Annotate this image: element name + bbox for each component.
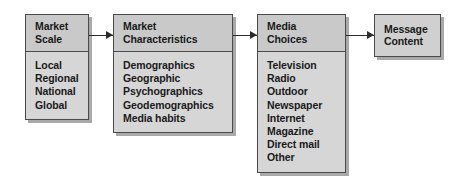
list-item: National [35, 85, 81, 98]
node-market-scale-header: Market Scale [26, 15, 88, 52]
arrow-head [106, 31, 113, 39]
node-media-choices[interactable]: Media Choices Television Radio Outdoor N… [257, 14, 346, 173]
node-media-choices-header-line-2: Choices [267, 33, 338, 46]
list-item: Internet [267, 112, 338, 125]
list-item: Other [267, 151, 338, 164]
node-message-content[interactable]: Message Content [374, 14, 441, 57]
flow-diagram: Market Scale Local Regional National Glo… [0, 0, 452, 191]
node-message-content-header: Message Content [375, 15, 440, 56]
arrow-head [367, 31, 374, 39]
list-item: Geodemographics [123, 99, 225, 112]
list-item: Direct mail [267, 138, 338, 151]
list-item: Magazine [267, 125, 338, 138]
arrow-right-icon-market-scale-to-market-characteristics [89, 31, 113, 40]
list-item: Demographics [123, 59, 225, 72]
node-message-content-header-line-2: Content [384, 35, 433, 48]
node-media-choices-header: Media Choices [258, 15, 345, 52]
list-item: Outdoor [267, 85, 338, 98]
list-item: Television [267, 59, 338, 72]
node-market-characteristics-header-line-1: Market [123, 20, 225, 33]
list-item: Global [35, 99, 81, 112]
node-market-characteristics-header-line-2: Characteristics [123, 33, 225, 46]
list-item: Geographic [123, 72, 225, 85]
arrow-right-icon-media-choices-to-message-content [346, 31, 374, 40]
node-market-scale-body: Local Regional National Global [26, 52, 88, 119]
node-media-choices-body: Television Radio Outdoor Newspaper Inter… [258, 52, 345, 172]
node-market-characteristics-body: Demographics Geographic Psychographics G… [114, 52, 232, 132]
list-item: Regional [35, 72, 81, 85]
node-market-characteristics[interactable]: Market Characteristics Demographics Geog… [113, 14, 233, 133]
list-item: Radio [267, 72, 338, 85]
node-market-scale-header-line-1: Market [35, 20, 81, 33]
node-message-content-header-line-1: Message [384, 23, 433, 36]
arrow-right-icon-market-characteristics-to-media-choices [233, 31, 257, 40]
list-item: Newspaper [267, 99, 338, 112]
node-media-choices-header-line-1: Media [267, 20, 338, 33]
arrow-head [250, 31, 257, 39]
node-market-scale-header-line-2: Scale [35, 33, 81, 46]
list-item: Local [35, 59, 81, 72]
node-market-scale[interactable]: Market Scale Local Regional National Glo… [25, 14, 89, 120]
node-market-characteristics-header: Market Characteristics [114, 15, 232, 52]
list-item: Media habits [123, 112, 225, 125]
list-item: Psychographics [123, 85, 225, 98]
